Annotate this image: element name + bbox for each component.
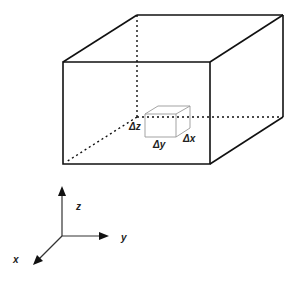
coordinate-axes <box>33 186 109 265</box>
axis-label-y: y <box>120 232 127 243</box>
hidden-left-bottom-edge <box>66 117 137 162</box>
label-dx: Δx <box>182 133 196 144</box>
axis-label-x: x <box>12 254 19 265</box>
element-front-face <box>145 114 176 137</box>
box-top-right-edge <box>210 15 283 62</box>
box-bottom-right-edge <box>210 117 283 164</box>
y-arrow-icon <box>99 232 109 240</box>
large-box <box>63 15 283 164</box>
x-axis <box>38 236 62 260</box>
z-arrow-icon <box>58 186 66 196</box>
diagram-canvas: Δz Δy Δx z y x <box>0 0 299 281</box>
label-dy: Δy <box>152 139 166 150</box>
box-front-face <box>63 62 210 164</box>
label-dz: Δz <box>128 121 141 132</box>
hidden-edges <box>66 15 283 162</box>
axis-label-z: z <box>75 201 81 212</box>
box-top-left-edge <box>63 15 137 62</box>
